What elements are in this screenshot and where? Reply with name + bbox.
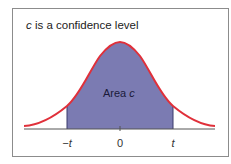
area-label-variable: c: [129, 87, 135, 99]
tick-label-t: t: [171, 137, 174, 149]
area-label: Area c: [103, 87, 135, 99]
title-text: is a confidence level: [32, 19, 139, 31]
diagram-title: c is a confidence level: [26, 19, 139, 31]
tick-label-neg-t: −t: [62, 137, 71, 149]
tick-label-zero: 0: [117, 137, 123, 149]
area-label-text: Area: [103, 87, 129, 99]
